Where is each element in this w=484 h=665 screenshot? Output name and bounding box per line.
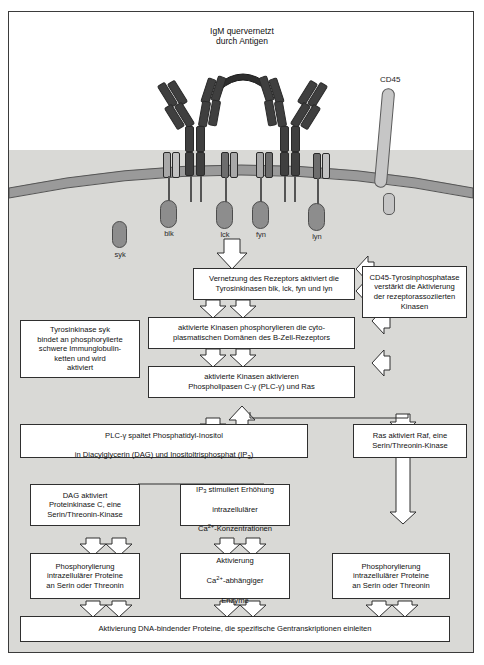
receptor-stem-4 [225,177,227,202]
ip3-line2: intrazellulärer [212,505,258,514]
flow-box-phospho-serine-threonin-right: Phosphorylierung intrazellulärer Protein… [332,553,450,599]
igalpha-chain-1 [163,152,171,178]
igm-right-fc-c [280,152,289,176]
igbeta-chain-3 [265,152,273,178]
kinase-lyn [308,203,325,231]
plc-line2-b: ) [251,450,254,459]
ip3-line1-b: stimuliert Erhöhung [206,485,274,494]
calcium-enzymes-line1: Aktivierung [216,556,254,565]
kinase-lyn-label: lyn [300,232,334,241]
receptor-stem-6 [284,176,286,202]
flow-box-syk-binding: Tyrosinkinase syk bindet an phosphorylie… [20,320,140,378]
receptor-stem-8 [317,178,319,205]
cd45-label: CD45 [380,75,400,84]
plc-line2-a: in Diacylglycerin (DAG) und Inositoltris… [75,450,248,459]
kinase-fyn-label: fyn [244,230,278,239]
igm-right-fc-b [291,126,300,152]
calcium-enzymes-line3: Enzyme [221,596,248,605]
kinase-lck [216,201,233,229]
flow-box-dna-binding-proteins: Aktivierung DNA-bindender Proteine, die … [20,616,450,642]
receptor-stem-7 [294,176,296,202]
igm-left-fc-a [185,126,194,152]
receptor-stem-3 [200,176,202,202]
flow-box-receptor-crosslink: Vernetzung des Rezeptors aktiviert die T… [193,268,355,300]
calcium-charge-superscript: 2+ [208,523,215,529]
syk-kinase [112,221,127,248]
kinase-blk-label: blk [152,229,186,238]
plc-line1: PLC-γ spaltet Phosphatidyl-Inositol [105,431,223,440]
cell-membrane [9,140,473,220]
flow-box-ras-raf: Ras aktiviert Raf, eine Serin/Threonin-K… [353,424,467,458]
flow-box-kinases-phosphorylate: aktivierte Kinasen phosphorylieren die c… [148,317,355,349]
igbeta-chain-2 [230,152,238,178]
igm-right-fc-a [280,126,289,152]
igbeta-chain-4 [322,153,330,179]
kinase-lck-label: lck [208,230,242,239]
ip3-line3-b: -Konzentrationen [214,524,272,533]
igbeta-chain-1 [172,152,180,178]
syk-kinase-label: syk [103,250,137,259]
figure-canvas: IgM quervernetzt durch Antigen [0,0,484,665]
igalpha-chain-2 [221,152,229,178]
flow-box-cd45-phosphatase: CD45-Tyrosinphosphatase verstärkt die Ak… [362,266,467,318]
receptor-stem-2 [190,176,192,202]
igm-left-fc-d [196,152,205,176]
ip3-line3-a: Ca [198,524,208,533]
ip3-subscript: 3 [203,488,206,494]
igalpha-chain-4 [313,153,321,179]
receptor-stem-5 [260,177,262,202]
calcium-enzymes-charge-superscript: 2+ [216,575,223,581]
igm-left-fc-c [185,152,194,176]
igm-right-fc-d [291,152,300,176]
kinase-blk [160,200,177,228]
igm-left-fc-b [196,126,205,152]
flow-box-ip3-calcium: IP3 stimuliert Erhöhung intrazellulärer … [180,484,290,526]
calcium-enzymes-line2-a: Ca [207,576,217,585]
plc-ip3-subscript: 3 [247,454,250,460]
flow-box-calcium-enzymes: Aktivierung Ca2+-abhängiger Enzyme [180,553,290,599]
calcium-enzymes-line2-b: -abhängiger [223,576,264,585]
flow-box-phospho-serine-threonin-left: Phosphorylierung intrazellulärer Protein… [30,553,140,599]
igalpha-chain-3 [256,152,264,178]
cd45-intracellular-domain [383,193,395,215]
page-title: IgM quervernetzt durch Antigen [152,26,332,46]
flow-box-kinases-activate-plc: aktivierte Kinasen aktivieren Phospholip… [148,366,355,398]
flow-box-plc-cleaves: PLC-γ spaltet Phosphatidyl-Inositol in D… [20,424,308,458]
flow-box-dag-pkc: DAG aktiviert Proteinkinase C, eine Seri… [30,484,140,526]
kinase-fyn [252,201,269,229]
